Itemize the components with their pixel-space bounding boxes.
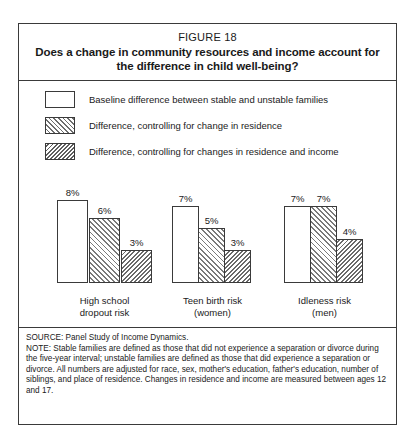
legend-item-baseline: Baseline difference between stable and u… [45,91,396,108]
bar-baseline-group3: 7% [284,187,311,283]
group-label-high-school-dropout-risk: High school dropout risk [57,295,152,319]
legend-item-residence: Difference, controlling for change in re… [45,117,396,134]
group-label-line1-group3: Idleness risk [272,295,377,307]
legend-swatch-back-hatch-icon [45,143,75,160]
bar-residence-group3: 7% [310,187,337,283]
bar-value-residence-income-group1: 3% [130,237,144,248]
bar-residence-group1: 6% [89,187,120,283]
figure-number: FIGURE 18 [29,30,386,44]
bar-residence-income-group2: 3% [224,187,251,283]
bar-value-residence-income-group3: 4% [343,226,357,237]
legend-label-baseline: Baseline difference between stable and u… [89,94,328,106]
methodology-note: NOTE: Stable families are defined as tho… [26,344,388,397]
bar-rect-residence-group2 [198,228,225,283]
bar-residence-group2: 5% [198,187,225,283]
notes-block: SOURCE: Panel Study of Income Dynamics. … [19,327,396,402]
bar-value-residence-group3: 7% [317,193,331,204]
bar-rect-baseline-group2 [172,206,199,283]
group-label-line1-group1: High school [57,295,152,307]
bar-residence-income-group1: 3% [121,187,152,283]
bar-rect-residence-group1 [89,218,120,283]
bar-rect-residence-income-group2 [224,250,251,283]
chart-legend: Baseline difference between stable and u… [19,81,396,173]
group-label-line2-group3: (men) [272,307,377,319]
bar-rect-baseline-group1 [57,200,88,283]
source-note: SOURCE: Panel Study of Income Dynamics. [26,333,388,344]
bar-rect-residence-income-group3 [336,239,363,283]
bar-residence-income-group3: 4% [336,187,363,283]
bar-value-baseline-group3: 7% [291,193,305,204]
legend-label-residence-income: Difference, controlling for changes in r… [89,146,339,158]
bar-baseline-group2: 7% [172,187,199,283]
bar-group-teen-birth-risk: 7% 5% 3% [172,187,294,283]
bar-value-residence-group1: 6% [98,205,112,216]
group-label-line1-group2: Teen birth risk [160,295,265,307]
group-label-teen-birth-risk: Teen birth risk (women) [160,295,265,319]
legend-swatch-forward-hatch-icon [45,117,75,134]
bar-group-idleness-risk: 7% 7% 4% [284,187,406,283]
figure-title: Does a change in community resources and… [29,45,386,73]
figure-frame: FIGURE 18 Does a change in community res… [18,23,397,425]
bar-rect-residence-group3 [310,206,337,283]
bar-value-baseline-group1: 8% [66,187,80,198]
bar-value-residence-group2: 5% [205,215,219,226]
plot-area: 8% 6% 3% High school dropout risk 7% 5 [19,175,396,327]
title-block: FIGURE 18 Does a change in community res… [19,24,396,81]
bar-rect-residence-income-group1 [121,250,152,283]
bar-group-high-school-dropout-risk: 8% 6% 3% [57,187,179,283]
group-label-line2-group2: (women) [160,307,265,319]
legend-item-residence-income: Difference, controlling for changes in r… [45,143,396,160]
bar-value-residence-income-group2: 3% [231,237,245,248]
group-label-line2-group1: dropout risk [57,307,152,319]
legend-swatch-plain-icon [45,91,75,108]
legend-label-residence: Difference, controlling for change in re… [89,120,282,132]
bar-value-baseline-group2: 7% [179,193,193,204]
group-label-idleness-risk: Idleness risk (men) [272,295,377,319]
bar-rect-baseline-group3 [284,206,311,283]
bar-baseline-group1: 8% [57,187,88,283]
